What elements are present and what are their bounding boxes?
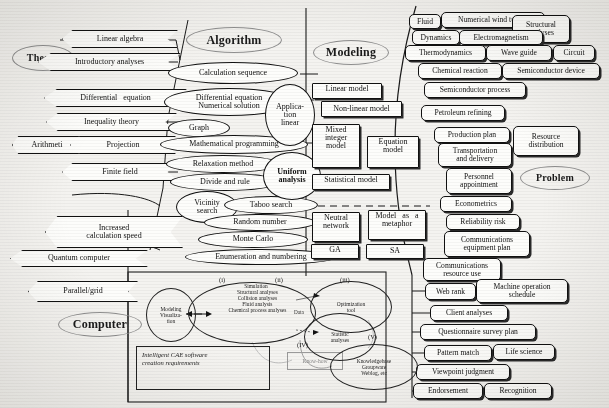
problem-node-15: Personnelappointment (446, 168, 512, 194)
problem-node-7: Circuit (553, 45, 595, 61)
problem-node-16: Econometrics (440, 196, 512, 212)
model-node-8: SA (366, 244, 424, 259)
model-node-4: Statistical model (312, 174, 390, 190)
figure-canvas: AlgorithmTheoryModelingProblemComputerLi… (0, 0, 609, 408)
problem-node-14: Transportationand delivery (438, 143, 512, 167)
problem-node-9: Semiconductor device (502, 63, 600, 79)
algorithm-node-0: Calculation sequence (168, 62, 298, 84)
problem-node-12: Production plan (434, 127, 510, 143)
problem-node-4: Electromagnetism (459, 30, 543, 45)
theory-node-0: Linear algebra (62, 30, 178, 48)
model-node-7: GA (311, 244, 359, 259)
problem-node-27: Endorsement (413, 383, 483, 399)
category-oval-modeling: Modeling (313, 40, 389, 65)
problem-node-21: Machine operationschedule (476, 279, 568, 303)
problem-node-11: Petroleum refining (421, 105, 505, 121)
computer-node-0: Increasedcalculation speed (45, 216, 183, 248)
problem-node-26: Viewpoint judgment (416, 364, 510, 380)
problem-node-19: Communicationsresource use (423, 258, 501, 281)
problem-node-25: Life science (493, 344, 555, 360)
problem-node-24: Pattern match (424, 345, 492, 361)
problem-node-23: Questionnaire survey plan (420, 324, 536, 340)
theory-node-1: Introductory analyses (38, 53, 181, 71)
model-node-1: Non-linear model (321, 101, 402, 117)
category-oval-algorithm: Algorithm (186, 27, 282, 53)
problem-node-28: Recognition (484, 383, 552, 399)
problem-node-13: Resourcedistribution (513, 126, 579, 156)
panel-oval-simulation-list: Simulation Structural analyses Collision… (188, 282, 316, 344)
problem-node-17: Reliability risk (446, 214, 520, 230)
model-node-0: Linear model (312, 83, 382, 99)
panel-tag-ii: (ii) (275, 276, 283, 283)
problem-node-20: Web rank (425, 283, 476, 300)
algorithm-node-11: Applica-tionlinear (265, 84, 315, 146)
panel-tag-i: (i) (219, 276, 225, 283)
problem-node-6: Wave guide (486, 45, 552, 61)
category-oval-problem: Problem (520, 166, 590, 190)
algorithm-node-8: Random number (204, 214, 316, 231)
theory-node-6: Finite field (62, 163, 178, 181)
model-node-6: Model as ametaphor (368, 210, 426, 240)
caption-box: Intelligent CAE softwarecreation require… (136, 346, 270, 390)
model-node-2: Mixedintegermodel (312, 124, 360, 168)
theory-node-3: Inequality theory (46, 113, 177, 131)
problem-node-10: Semiconductor process (424, 82, 526, 98)
problem-node-5: Thermodynamics (405, 45, 486, 61)
panel-oval-knowledgebase: KnowledgebaseGroupwareWeblog, etc (330, 344, 418, 390)
problem-node-8: Chemical reaction (418, 63, 502, 79)
computer-node-2: Parallel/grid (28, 281, 138, 302)
category-oval-computer: Computer (58, 312, 142, 337)
model-node-3: Equationmodel (367, 136, 419, 168)
problem-node-22: Client analyses (430, 305, 508, 321)
problem-node-3: Dynamics (412, 30, 460, 45)
model-node-5: Neutralnetwork (312, 212, 360, 242)
algorithm-node-7: Taboo search (224, 196, 318, 214)
computer-node-1: Quantum computer (10, 250, 148, 267)
problem-node-18: Communicationsequipment plan (444, 231, 530, 257)
algorithm-node-9: Monte Carlo (198, 231, 308, 248)
problem-node-0: Fluid (409, 14, 441, 29)
